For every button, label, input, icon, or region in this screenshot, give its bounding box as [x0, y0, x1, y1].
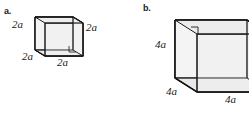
dimension-label-b-bottom-left: 4a: [166, 85, 177, 97]
dimension-label-a-left: 2a: [12, 18, 23, 30]
dimension-label-b-left: 4a: [155, 38, 166, 50]
figure-part-a: a. 2a 2a 2a 2a: [0, 0, 125, 117]
figure-page: a. 2a 2a 2a 2a: [0, 0, 249, 117]
dimension-label-b-bottom-right: 4a: [225, 93, 236, 105]
dimension-label-a-right: 2a: [86, 21, 97, 33]
dimension-label-a-bottom-left: 2a: [22, 50, 33, 62]
dimension-label-a-bottom-right: 2a: [57, 56, 68, 68]
figure-part-b: b. 4a 4a 4a: [125, 0, 249, 117]
cube-b-front-face: [197, 34, 249, 92]
